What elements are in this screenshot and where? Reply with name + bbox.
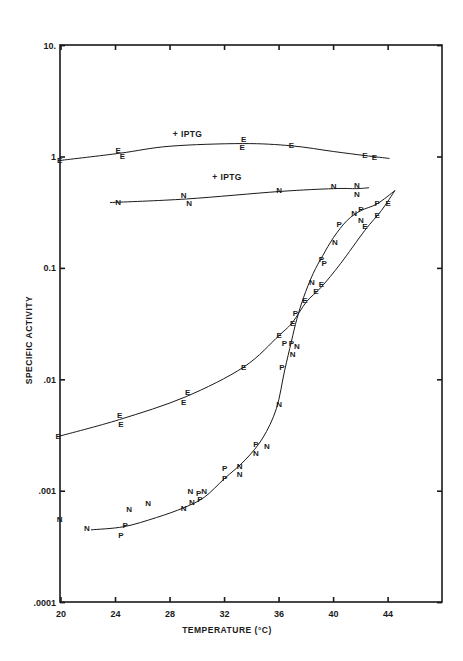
- data-point-e: E: [319, 280, 325, 289]
- data-point-e: E: [385, 199, 391, 208]
- data-point-e: E: [57, 156, 63, 165]
- iptg-annotation: + IPTG: [212, 172, 242, 182]
- data-point-p: P: [222, 474, 228, 483]
- data-point-n: N: [309, 278, 315, 287]
- y-axis-label: SPECIFIC ACTIVITY: [24, 296, 34, 384]
- curve-n-p-fitted-curve: [91, 191, 395, 530]
- data-point-n: N: [354, 190, 360, 199]
- data-point-n: N: [354, 181, 360, 190]
- data-point-n: N: [237, 470, 243, 479]
- data-point-n: N: [189, 498, 195, 507]
- data-point-n: N: [332, 238, 338, 247]
- data-point-n: N: [276, 400, 282, 409]
- data-point-e: E: [375, 211, 381, 220]
- data-point-p: P: [375, 199, 381, 208]
- data-point-n: N: [264, 442, 270, 451]
- x-axis-label: TEMPERATURE (°C): [182, 625, 272, 635]
- data-point-p: P: [282, 339, 288, 348]
- x-tick-label: 40: [329, 609, 339, 619]
- data-point-e: E: [240, 143, 246, 152]
- data-point-n: N: [188, 487, 194, 496]
- data-point-e: E: [290, 319, 296, 328]
- data-point-n: N: [294, 342, 300, 351]
- data-point-n: N: [290, 350, 296, 359]
- data-point-n: N: [115, 198, 121, 207]
- data-point-n: N: [145, 499, 151, 508]
- x-tick-label: 32: [220, 609, 230, 619]
- curve-e-iptg: [60, 144, 390, 161]
- y-tick-label: 1: [51, 152, 56, 162]
- data-point-p: P: [321, 259, 327, 268]
- curve-e: [58, 191, 395, 437]
- data-point-e: E: [117, 411, 123, 420]
- data-point-n: N: [358, 216, 364, 225]
- y-tick-label: 0.1: [43, 263, 56, 273]
- data-point-p: P: [118, 531, 124, 540]
- y-tick-label: 10.: [43, 41, 56, 51]
- data-point-p: P: [358, 205, 364, 214]
- data-point-n: N: [186, 199, 192, 208]
- data-point-p: P: [293, 309, 299, 318]
- plot-frame: [60, 45, 442, 602]
- x-tick-label: 36: [274, 609, 284, 619]
- data-point-e: E: [120, 152, 126, 161]
- data-point-e: E: [185, 388, 191, 397]
- data-point-e: E: [372, 153, 378, 162]
- data-point-e: E: [289, 141, 295, 150]
- data-point-p: P: [279, 363, 285, 372]
- data-point-e: E: [56, 432, 62, 441]
- data-point-n: N: [331, 182, 337, 191]
- chart: 20242832364044.0001.001.010.1110. EEEEEE…: [0, 0, 463, 661]
- y-tick-label: .01: [43, 375, 56, 385]
- data-point-n: N: [84, 524, 90, 533]
- x-tick-label: 20: [56, 609, 66, 619]
- y-tick-label: .001: [38, 486, 56, 496]
- iptg-annotation: + IPTG: [173, 129, 203, 139]
- data-point-p: P: [197, 495, 203, 504]
- data-point-n: N: [351, 209, 357, 218]
- data-point-e: E: [362, 151, 368, 160]
- x-tick-label: 28: [165, 609, 175, 619]
- data-point-e: E: [302, 296, 308, 305]
- data-point-e: E: [118, 420, 124, 429]
- annotations: + IPTG+ IPTG: [173, 129, 242, 182]
- x-tick-label: 24: [111, 609, 121, 619]
- data-point-n: N: [276, 186, 282, 195]
- data-point-n: N: [181, 504, 187, 513]
- y-tick-label: .0001: [33, 598, 56, 608]
- x-tick-label: 44: [383, 609, 393, 619]
- data-point-p: P: [336, 220, 342, 229]
- data-point-n: N: [201, 487, 207, 496]
- data-point-p: P: [122, 521, 128, 530]
- data-point-e: E: [181, 398, 187, 407]
- data-point-e: E: [241, 363, 247, 372]
- data-point-n: N: [57, 515, 63, 524]
- axis-ticks: 20242832364044.0001.001.010.1110.: [33, 41, 442, 619]
- data-point-n: N: [253, 449, 259, 458]
- data-point-p: P: [222, 464, 228, 473]
- data-point-n: N: [126, 505, 132, 514]
